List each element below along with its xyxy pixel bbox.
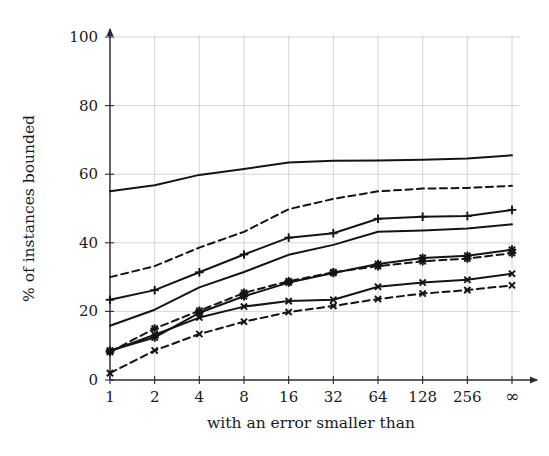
y-axis-title: % of instances bounded — [20, 115, 38, 302]
y-tick-label: 100 — [69, 28, 98, 46]
x-tick-label: 2 — [150, 388, 160, 406]
x-tick-label: 4 — [195, 388, 205, 406]
marker-plus — [240, 250, 249, 259]
marker-star — [329, 268, 338, 277]
marker-plus — [508, 206, 517, 215]
series-line-series-1-solid-top — [110, 155, 512, 191]
x-tick-label: 8 — [239, 388, 249, 406]
marker-plus — [418, 212, 427, 221]
axis-titles: with an error smaller than% of instances… — [20, 115, 415, 432]
y-tick-label: 20 — [79, 302, 98, 320]
y-tick-labels: 020406080100 — [69, 28, 98, 389]
marker-plus — [284, 233, 293, 242]
marker-plus — [374, 214, 383, 223]
marker-plus — [150, 286, 159, 295]
marker-plus — [106, 295, 115, 304]
series-line-series-4-solid-plain — [110, 224, 512, 326]
axes — [105, 29, 537, 384]
marker-star — [463, 254, 472, 263]
x-tick-label: 64 — [368, 388, 387, 406]
x-tick-label: 128 — [408, 388, 437, 406]
x-tick-label: 16 — [279, 388, 298, 406]
x-tick-label: ∞ — [505, 386, 519, 406]
marker-star — [374, 262, 383, 271]
series-line-series-3-solid-plus — [110, 210, 512, 300]
y-tick-label: 80 — [79, 97, 98, 115]
x-tick-label: 32 — [324, 388, 343, 406]
marker-star — [418, 257, 427, 266]
series-line-series-2-dashed-upper — [110, 186, 512, 277]
performance-profile-figure: 1248163264128256∞ 020406080100 with an e… — [0, 0, 549, 456]
y-tick-label: 0 — [88, 371, 98, 389]
marker-plus — [463, 212, 472, 221]
marker-star — [284, 277, 293, 286]
x-axis-title: with an error smaller than — [207, 414, 415, 432]
marker-plus — [329, 229, 338, 238]
x-tick-label: 256 — [453, 388, 482, 406]
data-series — [110, 155, 512, 373]
marker-star — [508, 249, 517, 258]
y-tick-label: 40 — [79, 234, 98, 252]
y-tick-label: 60 — [79, 165, 98, 183]
chart-canvas: 1248163264128256∞ 020406080100 with an e… — [0, 0, 549, 456]
x-tick-label: 1 — [105, 388, 115, 406]
marker-star — [240, 289, 249, 298]
x-tick-labels: 1248163264128256∞ — [105, 386, 519, 406]
series-line-series-7-solid-cross — [110, 274, 512, 352]
marker-star — [195, 306, 204, 315]
marker-plus — [195, 268, 204, 277]
